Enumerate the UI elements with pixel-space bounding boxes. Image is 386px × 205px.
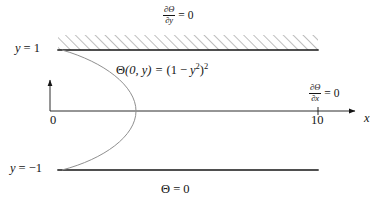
fraction-numerator: ∂Θ — [163, 5, 175, 16]
y-bottom-value: = −1 — [16, 161, 42, 175]
theta-symbol: Θ — [116, 63, 125, 77]
top-wall-hatching — [58, 35, 318, 50]
theta-arguments: (0, y) — [125, 63, 151, 77]
x-tick-label-10: 10 — [311, 114, 324, 127]
equals-sign: = — [151, 63, 166, 77]
fraction-denominator: ∂x — [309, 94, 321, 104]
axis-label-y-top: y= 1 — [15, 42, 40, 55]
outer-exponent: 2 — [204, 61, 208, 71]
y-symbol: y — [15, 41, 21, 55]
y-symbol: y — [10, 161, 16, 175]
partial-derivative-fraction-y: ∂Θ ∂y — [163, 5, 175, 25]
x-origin-label: 0 — [50, 114, 56, 127]
fraction-numerator: ∂Θ — [309, 83, 321, 94]
figure-container: ∂Θ ∂y = 0 ∂Θ ∂x = 0 y= 1 y= −1 Θ(0, y)=(… — [0, 0, 386, 205]
rhs-open-paren: (1 — [166, 63, 176, 77]
boundary-condition-top: ∂Θ ∂y = 0 — [163, 6, 193, 26]
equals-zero-top: = 0 — [175, 10, 193, 22]
axis-label-y-bottom: y= −1 — [10, 162, 42, 175]
inlet-condition-equation: Θ(0, y)=(1−y2)2 — [116, 64, 208, 77]
x-axis-name-label: x — [364, 112, 370, 125]
boundary-condition-right: ∂Θ ∂x = 0 — [309, 84, 339, 104]
minus-sign: − — [177, 63, 190, 77]
partial-derivative-fraction-x: ∂Θ ∂x — [309, 83, 321, 103]
boundary-condition-bottom: Θ = 0 — [161, 183, 190, 196]
equals-zero-right: = 0 — [321, 88, 339, 100]
fraction-denominator: ∂y — [163, 16, 175, 26]
y-top-value: = 1 — [21, 41, 40, 55]
